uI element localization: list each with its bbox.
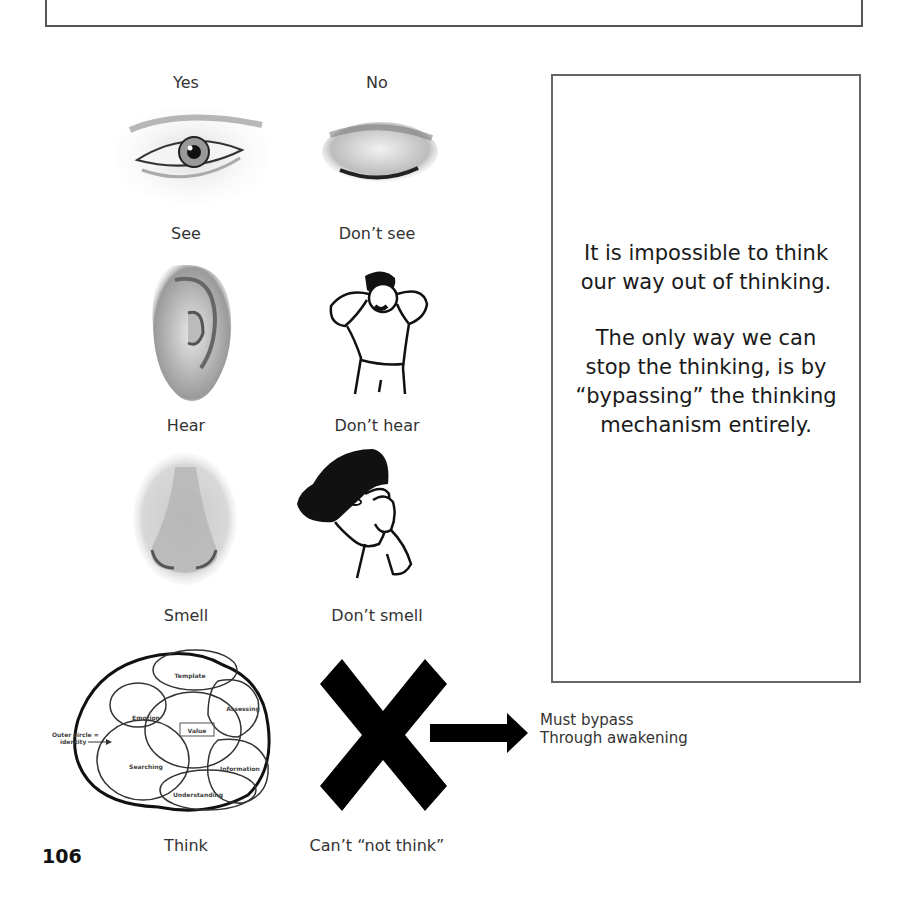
label-dont-see: Don’t see bbox=[307, 224, 447, 243]
label-see: See bbox=[116, 224, 256, 243]
thinking-diagram: Template Emotion Assessing Value Searchi… bbox=[48, 645, 278, 815]
region-assessing: Assessing bbox=[226, 705, 260, 713]
ear-illustration bbox=[143, 258, 238, 408]
outer-circle-label-line1: Outer circle = bbox=[52, 731, 99, 738]
column-header-no: No bbox=[307, 73, 447, 92]
label-think: Think bbox=[116, 836, 256, 855]
page-number: 106 bbox=[42, 845, 82, 867]
callout-paragraph-2: The only way we can stop the thinking, i… bbox=[553, 324, 859, 440]
top-frame-box bbox=[45, 0, 863, 27]
right-arrow-icon bbox=[430, 713, 528, 753]
region-emotion: Emotion bbox=[132, 714, 160, 721]
label-smell: Smell bbox=[116, 606, 256, 625]
region-understanding: Understanding bbox=[173, 791, 223, 799]
label-hear: Hear bbox=[116, 416, 256, 435]
callout-text: It is impossible to think our way out of… bbox=[553, 239, 859, 440]
person-covering-ears-illustration bbox=[325, 268, 435, 398]
open-eye-illustration bbox=[112, 100, 272, 210]
label-dont-smell: Don’t smell bbox=[307, 606, 447, 625]
column-header-yes: Yes bbox=[116, 73, 256, 92]
bypass-note: Must bypass Through awakening bbox=[540, 711, 688, 747]
callout-paragraph-1: It is impossible to think our way out of… bbox=[553, 239, 859, 297]
region-searching: Searching bbox=[129, 763, 163, 771]
region-template: Template bbox=[175, 672, 206, 680]
outer-circle-pointer-arrowhead bbox=[106, 739, 112, 745]
label-dont-hear: Don’t hear bbox=[307, 416, 447, 435]
region-information: Information bbox=[220, 765, 260, 772]
label-cant-not-think: Can’t “not think” bbox=[297, 836, 457, 855]
bypass-note-line2: Through awakening bbox=[540, 729, 688, 747]
person-pinching-nose-illustration bbox=[293, 444, 423, 584]
x-mark-icon bbox=[320, 659, 447, 811]
outer-circle-label-line2: identity bbox=[60, 738, 86, 746]
bypass-note-line1: Must bypass bbox=[540, 711, 688, 729]
region-value: Value bbox=[188, 727, 207, 734]
closed-eye-illustration bbox=[320, 120, 440, 190]
callout-box: It is impossible to think our way out of… bbox=[551, 74, 861, 683]
nose-illustration bbox=[130, 452, 240, 587]
